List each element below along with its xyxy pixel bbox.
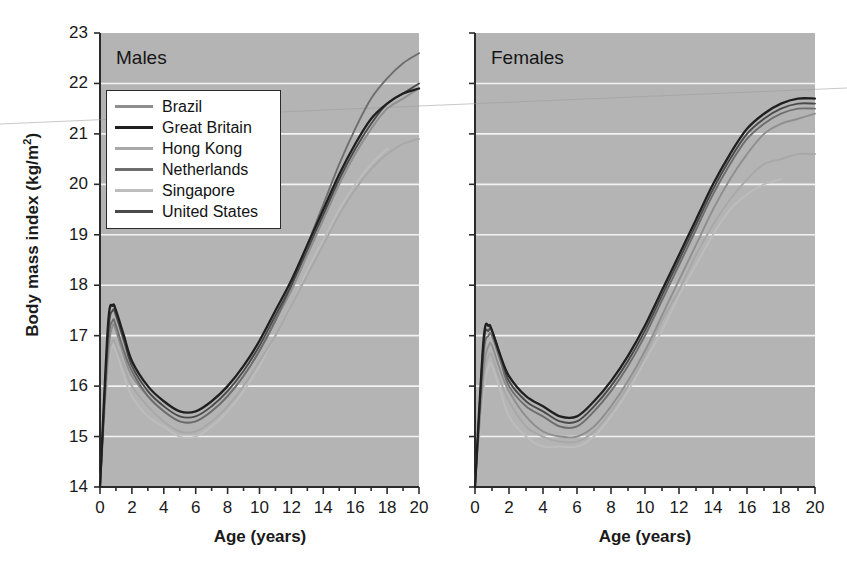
legend-item-label: Great Britain: [162, 120, 252, 136]
y-tick-label: 16: [54, 377, 88, 394]
x-axis-label-females: Age (years): [475, 527, 815, 547]
legend-item-label: United States: [162, 204, 258, 220]
y-tick-label: 20: [54, 175, 88, 192]
x-axis-label-males: Age (years): [100, 527, 420, 547]
legend-item-label: Netherlands: [162, 162, 248, 178]
legend-line-swatch: [115, 126, 153, 129]
bmi-figure: Body mass index (kg/m2) Males Females Br…: [0, 0, 847, 571]
legend-line-swatch: [115, 210, 153, 213]
legend-line-swatch: [115, 105, 153, 108]
y-axis-label-text: Body mass index (kg/m: [23, 145, 42, 337]
y-axis-label-close: ): [23, 133, 42, 139]
legend-item-label: Singapore: [162, 183, 235, 199]
legend: BrazilGreat BritainHong KongNetherlandsS…: [106, 90, 281, 229]
y-tick-label: 22: [54, 74, 88, 91]
plot-canvas: [0, 0, 847, 571]
legend-item[interactable]: United States: [115, 201, 272, 222]
panel-title-females: Females: [491, 48, 564, 67]
legend-line-swatch: [115, 147, 153, 150]
legend-item-label: Brazil: [162, 99, 202, 115]
x-tick-label: 20: [399, 499, 439, 516]
legend-item[interactable]: Great Britain: [115, 117, 272, 138]
legend-line-swatch: [115, 168, 153, 171]
y-tick-label: 15: [54, 428, 88, 445]
x-tick-label: 20: [795, 499, 835, 516]
y-axis-label: Body mass index (kg/m2): [21, 85, 43, 385]
y-axis-label-superscript: 2: [21, 139, 33, 145]
legend-item[interactable]: Singapore: [115, 180, 272, 201]
legend-item[interactable]: Hong Kong: [115, 138, 272, 159]
y-tick-label: 14: [54, 478, 88, 495]
legend-item[interactable]: Netherlands: [115, 159, 272, 180]
legend-item[interactable]: Brazil: [115, 96, 272, 117]
y-tick-label: 19: [54, 226, 88, 243]
legend-line-swatch: [115, 189, 153, 192]
y-tick-label: 17: [54, 327, 88, 344]
y-tick-label: 23: [54, 24, 88, 41]
y-tick-label: 18: [54, 276, 88, 293]
legend-item-label: Hong Kong: [162, 141, 242, 157]
panel-title-males: Males: [116, 48, 167, 67]
y-tick-label: 21: [54, 125, 88, 142]
